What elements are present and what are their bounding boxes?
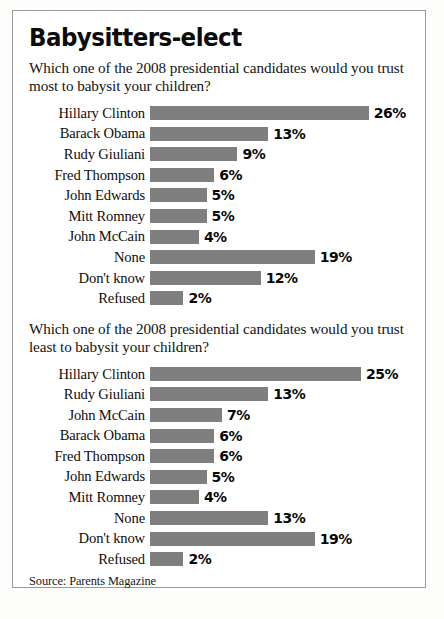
bar: [150, 127, 268, 141]
category-label: Rudy Giuliani: [27, 387, 150, 402]
page-title: Babysitters-elect: [29, 25, 380, 50]
value-label: 9%: [242, 146, 265, 162]
category-label: Refused: [27, 291, 150, 306]
chart-row: None13%: [27, 508, 411, 529]
category-label: Hillary Clinton: [27, 367, 150, 382]
chart-row: None19%: [27, 247, 411, 268]
chart-row: Rudy Giuliani9%: [27, 144, 411, 165]
chart-row: Refused2%: [27, 549, 411, 570]
category-label: Rudy Giuliani: [27, 147, 150, 162]
value-label: 4%: [204, 229, 227, 245]
chart-row: Refused2%: [27, 288, 411, 309]
category-label: John Edwards: [27, 188, 150, 203]
category-label: None: [27, 511, 150, 526]
bar-container: 19%: [150, 531, 411, 547]
bar-container: 6%: [150, 448, 411, 464]
category-label: John Edwards: [27, 469, 150, 484]
chart-row: Don't know19%: [27, 528, 411, 549]
chart-row: Fred Thompson6%: [27, 165, 411, 186]
bar-container: 13%: [150, 510, 411, 526]
bar: [150, 147, 237, 161]
bar-container: 4%: [150, 229, 411, 245]
bar-container: 5%: [150, 187, 411, 203]
bar-container: 4%: [150, 489, 411, 505]
bar: [150, 271, 261, 285]
category-label: None: [27, 250, 150, 265]
chart-row: John Edwards5%: [27, 185, 411, 206]
value-label: 6%: [219, 167, 242, 183]
bar: [150, 291, 183, 305]
value-label: 19%: [320, 249, 352, 265]
value-label: 5%: [212, 469, 235, 485]
bar: [150, 552, 183, 566]
chart-row: Mitt Romney5%: [27, 206, 411, 227]
chart-row: Barack Obama6%: [27, 425, 411, 446]
value-label: 19%: [320, 531, 352, 547]
bar-container: 12%: [150, 270, 411, 286]
chart-row: Rudy Giuliani13%: [27, 384, 411, 405]
bar-container: 5%: [150, 469, 411, 485]
chart-row: Don't know12%: [27, 268, 411, 289]
category-label: Mitt Romney: [27, 490, 150, 505]
bar: [150, 387, 268, 401]
category-label: John McCain: [27, 229, 150, 244]
bar-container: 26%: [150, 105, 411, 121]
bar-container: 19%: [150, 249, 411, 265]
bar: [150, 367, 361, 381]
bar: [150, 106, 369, 120]
bar: [150, 449, 214, 463]
value-label: 2%: [188, 551, 211, 567]
category-label: Hillary Clinton: [27, 106, 150, 121]
question-least: Which one of the 2008 presidential candi…: [29, 320, 411, 357]
source-note: Source: Parents Magazine: [29, 574, 411, 589]
value-label: 5%: [212, 187, 235, 203]
bar: [150, 168, 214, 182]
bar: [150, 490, 199, 504]
bar: [150, 532, 315, 546]
bar: [150, 470, 207, 484]
value-label: 5%: [212, 208, 235, 224]
bar-container: 2%: [150, 551, 411, 567]
bar-chart-least: Hillary Clinton25%Rudy Giuliani13%John M…: [27, 364, 411, 570]
chart-row: Hillary Clinton26%: [27, 103, 411, 124]
bar: [150, 188, 207, 202]
bar-container: 6%: [150, 167, 411, 183]
category-label: Barack Obama: [27, 126, 150, 141]
value-label: 12%: [266, 270, 298, 286]
chart-row: Fred Thompson6%: [27, 446, 411, 467]
bar-container: 5%: [150, 208, 411, 224]
chart-row: Barack Obama13%: [27, 123, 411, 144]
chart-row: John McCain4%: [27, 226, 411, 247]
chart-row: Mitt Romney4%: [27, 487, 411, 508]
bar-container: 6%: [150, 428, 411, 444]
bar: [150, 230, 199, 244]
bar: [150, 209, 207, 223]
value-label: 7%: [227, 407, 250, 423]
category-label: Barack Obama: [27, 428, 150, 443]
bar-container: 2%: [150, 290, 411, 306]
bar: [150, 250, 315, 264]
category-label: Mitt Romney: [27, 209, 150, 224]
bar: [150, 429, 214, 443]
category-label: Fred Thompson: [27, 449, 150, 464]
bar-container: 13%: [150, 126, 411, 142]
question-most: Which one of the 2008 presidential candi…: [29, 59, 411, 96]
bar: [150, 408, 222, 422]
bar-container: 9%: [150, 146, 411, 162]
category-label: Don't know: [27, 531, 150, 546]
value-label: 13%: [273, 510, 305, 526]
value-label: 25%: [366, 366, 398, 382]
value-label: 26%: [374, 105, 406, 121]
infographic-frame: Babysitters-elect Which one of the 2008 …: [12, 10, 426, 588]
value-label: 13%: [273, 386, 305, 402]
chart-row: John McCain7%: [27, 405, 411, 426]
chart-row: John Edwards5%: [27, 466, 411, 487]
bar-container: 13%: [150, 386, 411, 402]
category-label: Don't know: [27, 271, 150, 286]
category-label: Refused: [27, 552, 150, 567]
bar-container: 25%: [150, 366, 411, 382]
value-label: 13%: [273, 126, 305, 142]
value-label: 6%: [219, 448, 242, 464]
category-label: Fred Thompson: [27, 168, 150, 183]
category-label: John McCain: [27, 408, 150, 423]
